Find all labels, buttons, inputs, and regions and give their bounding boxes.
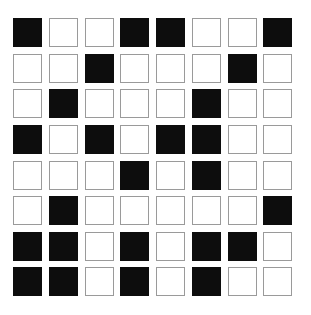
matrix-cell-7-8[interactable] [263, 232, 292, 261]
matrix-cell-3-5[interactable] [156, 89, 185, 118]
matrix-cell-slot [263, 232, 299, 268]
matrix-cell-slot [228, 161, 264, 197]
matrix-cell-1-2[interactable] [49, 18, 78, 47]
matrix-cell-6-7[interactable] [228, 196, 257, 225]
matrix-cell-slot [120, 54, 156, 90]
matrix-cell-8-2[interactable] [49, 267, 78, 296]
matrix-cell-8-1[interactable] [13, 267, 42, 296]
matrix-cell-8-8[interactable] [263, 267, 292, 296]
matrix-cell-slot [85, 89, 121, 125]
matrix-cell-slot [49, 18, 85, 54]
matrix-cell-slot [156, 54, 192, 90]
matrix-cell-slot [13, 18, 49, 54]
matrix-cell-3-3[interactable] [85, 89, 114, 118]
matrix-cell-slot [263, 54, 299, 90]
matrix-cell-slot [156, 18, 192, 54]
matrix-cell-2-2[interactable] [49, 54, 78, 83]
matrix-cell-6-3[interactable] [85, 196, 114, 225]
matrix-cell-slot [156, 196, 192, 232]
matrix-cell-4-4[interactable] [120, 125, 149, 154]
matrix-cell-slot [192, 267, 228, 303]
matrix-cell-slot [263, 18, 299, 54]
matrix-cell-6-6[interactable] [192, 196, 221, 225]
matrix-cell-5-8[interactable] [263, 161, 292, 190]
matrix-cell-slot [192, 232, 228, 268]
matrix-cell-slot [228, 54, 264, 90]
matrix-cell-slot [120, 232, 156, 268]
matrix-cell-8-6[interactable] [192, 267, 221, 296]
matrix-cell-slot [13, 267, 49, 303]
matrix-cell-6-8[interactable] [263, 196, 292, 225]
matrix-cell-slot [228, 89, 264, 125]
matrix-cell-slot [263, 161, 299, 197]
matrix-cell-1-5[interactable] [156, 18, 185, 47]
matrix-cell-slot [228, 232, 264, 268]
matrix-cell-3-1[interactable] [13, 89, 42, 118]
matrix-cell-slot [228, 18, 264, 54]
matrix-cell-8-3[interactable] [85, 267, 114, 296]
matrix-cell-2-6[interactable] [192, 54, 221, 83]
clipped-top-text-strip: · · ·· · ·· · · ·· · ·· · ·· · ··· · [0, 0, 311, 7]
matrix-cell-3-7[interactable] [228, 89, 257, 118]
matrix-cell-4-2[interactable] [49, 125, 78, 154]
matrix-cell-slot [156, 89, 192, 125]
matrix-cell-4-5[interactable] [156, 125, 185, 154]
matrix-cell-1-6[interactable] [192, 18, 221, 47]
matrix-cell-1-7[interactable] [228, 18, 257, 47]
matrix-cell-5-3[interactable] [85, 161, 114, 190]
matrix-cell-1-3[interactable] [85, 18, 114, 47]
matrix-cell-6-2[interactable] [49, 196, 78, 225]
matrix-cell-1-1[interactable] [13, 18, 42, 47]
matrix-cell-slot [49, 125, 85, 161]
matrix-cell-8-7[interactable] [228, 267, 257, 296]
matrix-cell-2-1[interactable] [13, 54, 42, 83]
matrix-cell-slot [120, 196, 156, 232]
matrix-cell-slot [228, 125, 264, 161]
matrix-cell-slot [120, 18, 156, 54]
matrix-cell-7-1[interactable] [13, 232, 42, 261]
matrix-cell-slot [13, 54, 49, 90]
matrix-cell-slot [263, 89, 299, 125]
matrix-cell-1-4[interactable] [120, 18, 149, 47]
matrix-cell-6-5[interactable] [156, 196, 185, 225]
matrix-cell-5-6[interactable] [192, 161, 221, 190]
matrix-cell-7-5[interactable] [156, 232, 185, 261]
matrix-cell-1-8[interactable] [263, 18, 292, 47]
matrix-cell-3-4[interactable] [120, 89, 149, 118]
matrix-cell-2-3[interactable] [85, 54, 114, 83]
matrix-cell-5-2[interactable] [49, 161, 78, 190]
matrix-cell-slot [13, 161, 49, 197]
matrix-cell-slot [263, 267, 299, 303]
matrix-cell-5-1[interactable] [13, 161, 42, 190]
matrix-cell-2-7[interactable] [228, 54, 257, 83]
matrix-cell-2-4[interactable] [120, 54, 149, 83]
matrix-cell-4-8[interactable] [263, 125, 292, 154]
matrix-cell-4-1[interactable] [13, 125, 42, 154]
matrix-cell-7-2[interactable] [49, 232, 78, 261]
matrix-cell-2-8[interactable] [263, 54, 292, 83]
matrix-cell-5-4[interactable] [120, 161, 149, 190]
matrix-cell-slot [263, 196, 299, 232]
matrix-cell-6-4[interactable] [120, 196, 149, 225]
matrix-cell-7-6[interactable] [192, 232, 221, 261]
matrix-cell-slot [228, 196, 264, 232]
matrix-cell-slot [13, 89, 49, 125]
matrix-cell-3-6[interactable] [192, 89, 221, 118]
matrix-cell-7-4[interactable] [120, 232, 149, 261]
matrix-cell-3-2[interactable] [49, 89, 78, 118]
matrix-cell-5-7[interactable] [228, 161, 257, 190]
matrix-cell-2-5[interactable] [156, 54, 185, 83]
matrix-cell-7-3[interactable] [85, 232, 114, 261]
matrix-cell-8-4[interactable] [120, 267, 149, 296]
matrix-cell-3-8[interactable] [263, 89, 292, 118]
matrix-cell-slot [120, 125, 156, 161]
matrix-cell-7-7[interactable] [228, 232, 257, 261]
matrix-cell-4-7[interactable] [228, 125, 257, 154]
matrix-cell-slot [49, 89, 85, 125]
matrix-cell-slot [156, 232, 192, 268]
matrix-cell-6-1[interactable] [13, 196, 42, 225]
matrix-cell-4-3[interactable] [85, 125, 114, 154]
matrix-cell-5-5[interactable] [156, 161, 185, 190]
matrix-cell-4-6[interactable] [192, 125, 221, 154]
matrix-cell-8-5[interactable] [156, 267, 185, 296]
